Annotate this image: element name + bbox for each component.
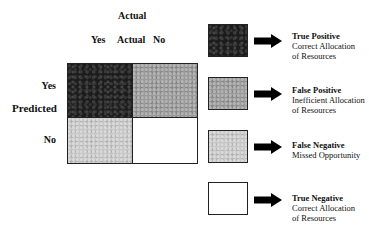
legend-swatch-true-negative	[208, 182, 248, 215]
column-label-yes: Yes	[91, 34, 105, 45]
legend-item-true-negative: True Negative Correct Allocation of Reso…	[292, 193, 355, 223]
legend-item-true-positive: True Positive Correct Allocation of Reso…	[292, 31, 355, 61]
legend-swatch-true-positive	[208, 24, 248, 57]
legend-item-false-negative: False Negative Missed Opportunity	[292, 140, 360, 160]
legend-item-false-positive: False Positive Inefficient Allocation of…	[292, 85, 365, 115]
cell-true-negative	[132, 117, 198, 164]
cell-false-positive	[132, 63, 198, 118]
column-axis-title: Actual	[118, 10, 146, 21]
legend-desc-line2: of Resources	[292, 213, 355, 223]
cell-true-positive	[67, 63, 133, 118]
legend-desc-line2: of Resources	[292, 105, 365, 115]
legend-title: False Negative	[292, 140, 360, 150]
right-arrow-icon	[254, 34, 282, 48]
right-arrow-icon	[254, 87, 282, 101]
cell-false-negative	[67, 117, 133, 164]
row-label-no: No	[30, 134, 56, 145]
legend-title: False Positive	[292, 85, 365, 95]
legend-desc-line1: Inefficient Allocation	[292, 95, 365, 105]
legend-desc-line1: Correct Allocation	[292, 41, 355, 51]
legend-desc-line2: of Resources	[292, 51, 355, 61]
row-label-yes: Yes	[30, 80, 56, 91]
right-arrow-icon	[254, 140, 282, 154]
column-label-actual: Actual	[117, 34, 145, 45]
row-axis-title: Predicted	[0, 102, 57, 114]
legend-desc-line1: Missed Opportunity	[292, 150, 360, 160]
column-label-no: No	[153, 34, 165, 45]
legend-title: True Negative	[292, 193, 355, 203]
legend-desc-line1: Correct Allocation	[292, 203, 355, 213]
legend-title: True Positive	[292, 31, 355, 41]
legend-swatch-false-negative	[208, 130, 248, 163]
right-arrow-icon	[254, 193, 282, 207]
legend-swatch-false-positive	[208, 77, 248, 110]
